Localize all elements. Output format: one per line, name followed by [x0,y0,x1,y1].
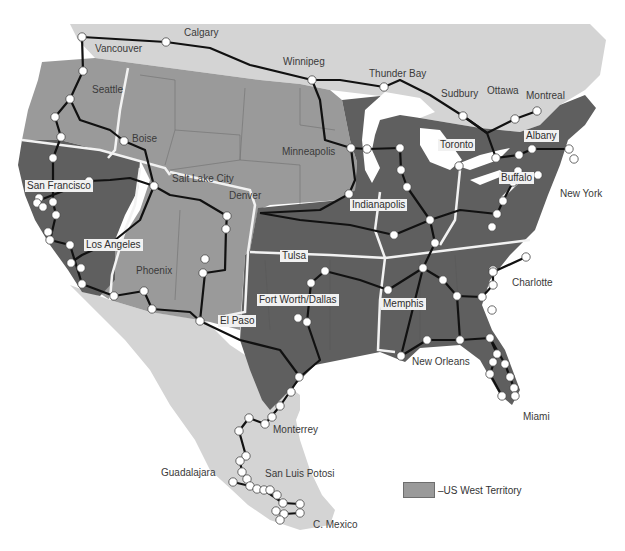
station-node [78,33,86,41]
station-node [459,112,467,120]
station-node [287,388,295,396]
station-node [307,279,315,287]
station-node [296,500,304,508]
station-node [511,115,519,123]
station-node [570,155,578,163]
station-node [499,197,507,205]
station-node [162,38,170,46]
station-node [522,253,530,261]
city-label: San Luis Potosi [265,468,335,480]
city-label: Sudbury [441,88,478,100]
station-node [52,211,60,219]
station-node [39,203,47,211]
station-node [51,113,59,121]
legend: –US West Territory [403,482,522,498]
station-node [235,427,243,435]
station-node [419,264,427,272]
city-label: C. Mexico [313,519,357,531]
station-node [403,183,411,191]
city-label: Buffalo [499,172,534,184]
city-label: Thunder Bay [369,68,426,80]
station-node [489,358,497,366]
station-node [276,402,284,410]
station-node [79,67,87,75]
station-node [229,478,237,486]
station-node [501,360,509,368]
station-node [493,350,501,358]
station-node [49,154,57,162]
station-node [46,236,54,244]
station-node [390,231,398,239]
city-label: Fort Worth/Dallas [257,294,339,306]
station-node [44,228,52,236]
legend-label: –US West Territory [438,485,522,496]
station-node [533,107,541,115]
station-node [150,182,158,190]
station-node [534,171,542,179]
station-node [486,370,494,378]
station-node [455,162,463,170]
station-node [486,334,494,342]
station-node [120,137,128,145]
station-node [431,239,439,247]
city-label: Vancouver [95,43,142,55]
city-label: Indianapolis [350,199,407,211]
station-node [308,76,316,84]
station-node [236,457,244,465]
station-node [363,145,371,153]
station-node [49,198,57,206]
station-node [506,373,514,381]
station-node [345,190,353,198]
station-node [272,507,280,515]
station-node [426,216,434,224]
station-node [380,83,388,91]
station-node [498,392,506,400]
city-label: Miami [523,411,550,423]
station-node [78,280,86,288]
city-label: Memphis [381,298,426,310]
station-node [384,286,392,294]
station-node [488,306,496,314]
city-label: New York [560,188,602,200]
station-node [66,241,74,249]
city-label: Calgary [184,27,218,39]
city-label: Minneapolis [282,146,335,158]
city-label: Toronto [438,139,475,151]
city-label: San Francisco [25,180,93,192]
station-node [488,223,496,231]
station-node [222,225,230,233]
station-node [295,373,303,381]
city-label: Ottawa [487,85,519,97]
station-node [511,392,519,400]
station-node [273,491,281,499]
legend-swatch [403,482,435,498]
station-node [439,276,447,284]
station-node [565,145,573,153]
station-node [294,314,302,322]
city-label: Montreal [526,90,565,102]
city-label: New Orleans [412,356,470,368]
station-node [397,352,405,360]
station-node [453,292,461,300]
station-node [110,292,118,300]
station-node [396,144,404,152]
station-node [199,269,207,277]
city-label: Seattle [92,84,123,96]
station-node [268,413,276,421]
city-label: Monterrey [273,424,318,436]
city-label: Albany [524,130,559,142]
city-label: Tulsa [280,250,308,262]
station-node [57,133,65,141]
station-node [140,287,148,295]
city-label: Los Angeles [84,239,143,251]
station-node [456,336,464,344]
city-label: Salt Lake City [172,173,234,185]
station-node [67,259,75,267]
city-label: Boise [132,133,157,145]
city-label: Winnipeg [283,56,325,68]
station-node [493,210,501,218]
city-label: Guadalajara [161,467,215,479]
city-label: Denver [229,190,261,202]
city-label: El Paso [218,315,256,327]
station-node [303,318,311,326]
